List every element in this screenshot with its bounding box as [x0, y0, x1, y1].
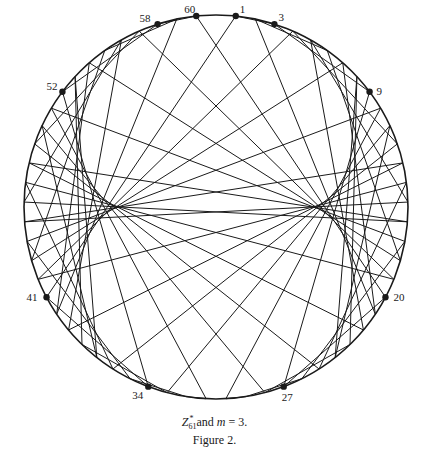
point-dot	[382, 294, 388, 300]
chord-line	[226, 108, 381, 399]
point-label: 34	[132, 389, 144, 401]
set-subscript: 61	[188, 422, 196, 431]
point-label: 9	[377, 85, 383, 97]
point-dot	[59, 89, 65, 95]
chord-line	[284, 92, 370, 387]
chord-line	[57, 63, 90, 314]
chord-line	[167, 126, 390, 393]
point-dot	[233, 13, 239, 19]
chord-line	[62, 24, 157, 92]
point-label: 41	[27, 291, 38, 303]
marked-points: 13927206058523441	[27, 3, 406, 403]
chord-line	[246, 379, 302, 397]
point-label: 60	[184, 3, 196, 15]
chord-line	[196, 16, 385, 297]
point-label: 27	[282, 391, 294, 403]
figure-caption: Z61* and m = 3.	[0, 415, 429, 430]
point-dot	[281, 383, 287, 389]
chord-line	[265, 345, 350, 393]
chord-line	[82, 345, 167, 393]
chord-line	[274, 24, 369, 92]
figure-label: Figure 2.	[0, 433, 429, 448]
chord-line	[32, 63, 343, 261]
point-label: 58	[140, 12, 152, 24]
chord-line	[51, 108, 206, 399]
point-label: 52	[46, 80, 57, 92]
point-label: 20	[394, 291, 406, 303]
chord-line	[35, 144, 319, 369]
set-superscript: *	[189, 414, 193, 423]
point-label: 3	[278, 11, 284, 23]
chord-line	[302, 241, 405, 378]
m-value: = 3.	[225, 415, 247, 429]
point-dot	[271, 21, 277, 27]
point-dot	[43, 294, 49, 300]
chord-line	[27, 241, 130, 378]
point-dot	[366, 89, 372, 95]
chord-line	[89, 63, 400, 261]
point-label: 1	[240, 3, 246, 15]
chord-diagram: 13927206058523441	[0, 0, 429, 412]
point-dot	[145, 383, 151, 389]
caption-and: and	[193, 415, 216, 429]
chord-line	[47, 16, 236, 297]
chord-line	[47, 297, 149, 386]
chord-line	[343, 63, 376, 314]
chords	[24, 16, 408, 399]
point-dot	[154, 21, 160, 27]
